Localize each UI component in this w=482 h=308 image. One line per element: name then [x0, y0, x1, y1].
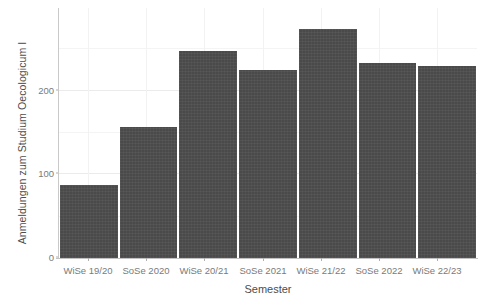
- y-axis-tick-labels: 200 100 0: [28, 0, 54, 308]
- x-tick-label-sose-2021: SoSe 2021: [239, 265, 286, 276]
- bar-chart-figure: Anmeldungen zum Studium Oecologicum I 20…: [0, 0, 482, 308]
- x-tick-mark-5: [321, 258, 322, 261]
- x-tick-label-wise-20-21: WiSe 20/21: [179, 265, 228, 276]
- x-axis-line: [56, 258, 478, 259]
- y-tick-label-200: 200: [28, 85, 54, 96]
- x-tick-mark-2: [146, 258, 147, 261]
- bar-sose-2021[interactable]: [239, 70, 297, 258]
- x-tick-label-wise-19-20: WiSe 19/20: [63, 265, 112, 276]
- y-axis-line: [58, 8, 59, 258]
- y-tick-label-0: 0: [28, 252, 54, 263]
- x-axis-title: Semester: [59, 283, 477, 295]
- x-tick-mark-4: [263, 258, 264, 261]
- y-tick-label-100: 100: [28, 168, 54, 179]
- x-tick-mark-6: [379, 258, 380, 261]
- x-tick-label-wise-21-22: WiSe 21/22: [296, 265, 345, 276]
- bar-wise-21-22[interactable]: [299, 29, 357, 258]
- bars-layer: [59, 8, 477, 258]
- bar-sose-2020[interactable]: [120, 127, 178, 258]
- plot-panel: [59, 8, 477, 258]
- x-tick-label-sose-2020: SoSe 2020: [122, 265, 169, 276]
- x-tick-mark-7: [437, 258, 438, 261]
- x-tick-label-wise-22-23: WiSe 22/23: [412, 265, 461, 276]
- x-tick-mark-1: [88, 258, 89, 261]
- x-tick-mark-3: [204, 258, 205, 261]
- bar-wise-20-21[interactable]: [179, 51, 237, 258]
- x-tick-label-sose-2022: SoSe 2022: [355, 265, 402, 276]
- bar-wise-19-20[interactable]: [60, 185, 118, 258]
- bar-sose-2022[interactable]: [359, 63, 417, 258]
- bar-wise-22-23[interactable]: [418, 66, 476, 258]
